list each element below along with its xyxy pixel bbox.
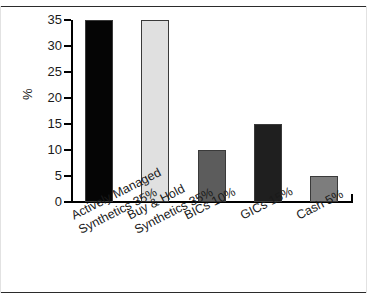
- bar: [254, 124, 282, 202]
- frame-left-edge: [0, 6, 1, 293]
- bar-chart-figure: % 05101520253035 Actively ManagedSynthet…: [0, 0, 367, 299]
- y-axis-tick-labels: 05101520253035: [22, 0, 62, 299]
- bar: [141, 20, 169, 202]
- y-axis-tick-label: 0: [24, 195, 62, 208]
- y-axis-tick-label: 10: [24, 143, 62, 156]
- bar: [310, 176, 338, 202]
- y-axis-tick-label: 30: [24, 39, 62, 52]
- y-axis-tick: [64, 19, 71, 21]
- y-axis-tick: [64, 175, 71, 177]
- plot-area: [71, 20, 352, 202]
- y-axis-tick: [64, 149, 71, 151]
- y-axis-tick-label: 20: [24, 91, 62, 104]
- y-axis-tick: [64, 97, 71, 99]
- y-axis-tick-label: 35: [24, 13, 62, 26]
- y-axis-tick: [64, 45, 71, 47]
- y-axis-tick: [64, 71, 71, 73]
- y-axis-tick-label: 5: [24, 169, 62, 182]
- y-axis-tick-label: 25: [24, 65, 62, 78]
- y-axis-tick: [64, 201, 71, 203]
- bar: [85, 20, 113, 202]
- y-axis-tick: [64, 123, 71, 125]
- y-axis-tick-label: 15: [24, 117, 62, 130]
- bar: [198, 150, 226, 202]
